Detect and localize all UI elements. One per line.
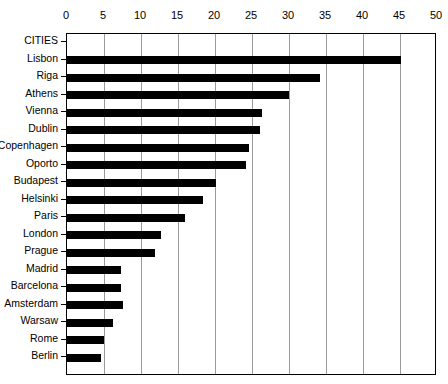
bar [67,161,246,169]
bar-row [67,349,435,367]
y-tick-label: Budapest [14,174,58,186]
y-tick-label-row: London [0,226,66,244]
y-tick-label: Dublin [28,122,58,134]
bar-row [67,122,435,140]
y-tick-label-row: Helsinki [0,191,66,209]
y-axis-title: CITIES [0,33,66,51]
bar-row [67,104,435,122]
y-tick-label-row: Copenhagen [0,138,66,156]
y-tick-label: Copenhagen [0,139,58,151]
bar [67,179,216,187]
bar-row [67,332,435,350]
y-tick-label-row: Warsaw [0,313,66,331]
y-tick-label-row: Riga [0,68,66,86]
x-tick-label: 40 [347,10,377,21]
bar [67,144,249,152]
y-tick-label: London [23,227,58,239]
bar-row [67,244,435,262]
y-axis-title-text: CITIES [24,34,58,46]
y-tick-label: Athens [25,87,58,99]
bar [67,284,121,292]
y-tick-label: Barcelona [11,279,58,291]
y-tick-label-row: Athens [0,86,66,104]
y-tick-label: Madrid [26,262,58,274]
y-tick-label: Paris [34,209,58,221]
y-tick-label: Riga [36,69,58,81]
bar-row [67,87,435,105]
bar [67,214,185,222]
y-tick-label: Warsaw [20,314,58,326]
x-tick-label: 0 [51,10,81,21]
x-tick-label: 50 [421,10,448,21]
x-tick-label: 45 [384,10,414,21]
y-tick-label: Berlin [31,349,58,361]
bar [67,91,289,99]
bar [67,301,123,309]
y-tick-label-row: Rome [0,331,66,349]
bar-row [67,174,435,192]
x-tick-label: 35 [310,10,340,21]
y-tick-label-row: Amsterdam [0,296,66,314]
bar [67,249,155,257]
bar-row [67,52,435,70]
x-tick-label: 10 [125,10,155,21]
y-tick-label: Lisbon [27,52,58,64]
y-tick-label-row: Oporto [0,156,66,174]
bar [67,266,121,274]
bar [67,126,260,134]
x-tick-label: 25 [236,10,266,21]
y-tick-label-row: Budapest [0,173,66,191]
bar-row [67,227,435,245]
y-tick-label-row: Lisbon [0,51,66,69]
y-tick-label: Helsinki [21,192,58,204]
y-tick-label-row: Vienna [0,103,66,121]
y-axis-category-labels: CITIESLisbonRigaAthensViennaDublinCopenh… [0,33,66,375]
y-tick-label: Rome [30,332,58,344]
bar [67,109,262,117]
bar-row [67,279,435,297]
y-tick-label-row: Madrid [0,261,66,279]
bar [67,231,161,239]
y-tick-label: Oporto [26,157,58,169]
bar-row [67,157,435,175]
bar-row [67,139,435,157]
y-tick-label-row: Dublin [0,121,66,139]
y-tick-label: Amsterdam [4,297,58,309]
bar-rows [67,34,435,374]
bar-chart: 05101520253035404550 CITIESLisbonRigaAth… [0,0,448,384]
bar-row [67,297,435,315]
y-tick-label-row: Prague [0,243,66,261]
bar [67,196,203,204]
y-tick-label-row: Berlin [0,348,66,366]
plot-area [66,33,436,375]
x-tick-label: 5 [88,10,118,21]
bar [67,336,104,344]
y-tick-label-row: Barcelona [0,278,66,296]
bar [67,319,113,327]
x-tick-label: 20 [199,10,229,21]
y-tick-label: Prague [24,244,58,256]
y-tick-label: Vienna [25,104,58,116]
x-tick-label: 15 [162,10,192,21]
x-axis-tick-labels: 05101520253035404550 [0,0,448,30]
bar-row [67,209,435,227]
bar [67,354,101,362]
bar [67,74,320,82]
y-tick-label-row: Paris [0,208,66,226]
bar-row [67,69,435,87]
x-tick-label: 30 [273,10,303,21]
bar-row [67,262,435,280]
bar-row [67,192,435,210]
bar-row [67,314,435,332]
bar [67,56,401,64]
